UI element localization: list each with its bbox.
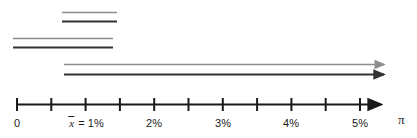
axis-label-0: 0 bbox=[14, 118, 20, 129]
confidence-interval-number-line-figure: 0 x = 1% 2% 3% 4% 5% π bbox=[0, 0, 417, 138]
axis-label-5-percent: 5% bbox=[352, 118, 368, 129]
mean-x-symbol: x bbox=[68, 117, 75, 129]
axis-label-2-percent: 2% bbox=[146, 118, 162, 129]
axis-end-label-pi: π bbox=[398, 113, 405, 126]
axis-label-3-percent: 3% bbox=[215, 118, 231, 129]
axis-label-4-percent: 4% bbox=[283, 118, 299, 129]
mean-equals-text: = 1% bbox=[78, 117, 103, 129]
axis-label-mean-1-percent: x = 1% bbox=[68, 118, 103, 129]
